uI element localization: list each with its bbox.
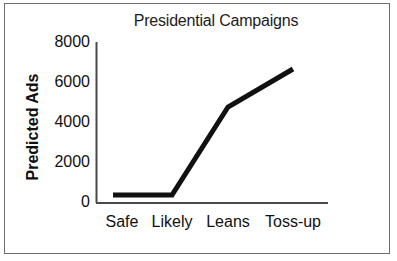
x-tick-label-likely: Likely — [152, 213, 193, 231]
x-tick-label-toss-up: Toss-up — [265, 213, 321, 231]
x-tick-label-leans: Leans — [206, 213, 250, 231]
chart-screenshot: Presidential Campaigns Predicted Ads 800… — [0, 0, 397, 261]
data-series-line — [113, 69, 293, 195]
x-tick-label-safe: Safe — [106, 213, 139, 231]
plot-svg — [0, 0, 397, 261]
chart-plot-region: Presidential Campaigns Predicted Ads 800… — [0, 0, 397, 261]
